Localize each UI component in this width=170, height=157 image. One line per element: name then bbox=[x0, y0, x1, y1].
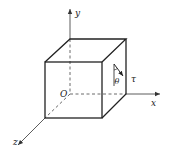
z-axis bbox=[18, 118, 45, 145]
z-axis-label: z bbox=[12, 137, 18, 147]
shear-arrow bbox=[114, 64, 123, 76]
stress-cube-diagram: y x z O θ τ bbox=[0, 0, 170, 157]
axes bbox=[18, 9, 160, 145]
origin-label: O bbox=[60, 89, 68, 99]
cube-top-face bbox=[45, 39, 126, 62]
angle-arc-icon bbox=[114, 69, 118, 71]
tau-label: τ bbox=[131, 74, 137, 84]
y-axis-label: y bbox=[74, 8, 81, 18]
theta-label: θ bbox=[115, 77, 120, 86]
x-axis-label: x bbox=[151, 98, 156, 108]
